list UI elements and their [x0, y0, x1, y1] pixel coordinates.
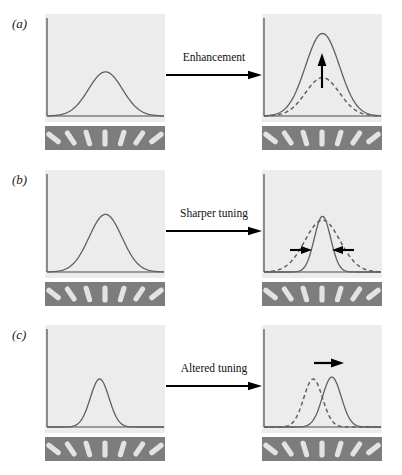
panel-b-transition-label: Sharper tuning: [168, 206, 260, 220]
panel-c-transition: Altered tuning: [168, 361, 260, 407]
panel-a-right-curve-svg: [262, 14, 382, 122]
orientation-bar: [132, 440, 146, 457]
inward-arrow-right-icon: [332, 246, 354, 254]
orientation-bar: [319, 286, 324, 303]
plot-background: [262, 325, 382, 433]
transition-arrow-icon: [166, 380, 262, 392]
orientation-bar: [117, 129, 127, 147]
orientation-bars: [45, 282, 165, 306]
panel-a-letter: (a): [12, 16, 27, 32]
plot-background: [262, 170, 382, 278]
orientation-bar: [365, 442, 382, 457]
orientation-bars: [262, 437, 382, 461]
orientation-bar: [262, 131, 279, 146]
up-arrow-icon: [318, 53, 327, 88]
orientation-bar: [83, 285, 93, 303]
baseline-curve-dashed: [264, 220, 381, 272]
orientation-bar: [148, 131, 165, 146]
panel-c-left-curve-svg: [45, 325, 165, 433]
transition-arrow-icon: [166, 225, 262, 237]
orientation-bar: [117, 285, 127, 303]
orientation-bar: [349, 129, 363, 146]
attended-curve: [264, 216, 381, 272]
attended-curve: [264, 377, 381, 427]
orientation-bar: [300, 440, 310, 458]
orientation-bar: [349, 440, 363, 457]
stimulus-strip: [262, 126, 382, 150]
orientation-bars: [262, 126, 382, 150]
orientation-bar: [132, 129, 146, 146]
orientation-bar: [102, 441, 107, 458]
panel-a: (a) Enhancement: [0, 14, 402, 169]
orientation-bar: [334, 129, 344, 147]
orientation-bar: [349, 285, 363, 302]
panel-c-left-plot: [45, 325, 165, 465]
orientation-bars: [45, 437, 165, 461]
orientation-bar: [365, 131, 382, 146]
orientation-bar: [262, 442, 279, 457]
orientation-bar: [148, 287, 165, 302]
orientation-bar: [365, 287, 382, 302]
orientation-bar: [64, 285, 78, 302]
tuning-curve-figure: (a) Enhancement: [0, 0, 402, 475]
panel-a-transition: Enhancement: [168, 50, 260, 96]
orientation-bar: [45, 131, 62, 146]
baseline-curve: [47, 72, 164, 116]
panel-a-left-plot: [45, 14, 165, 154]
baseline-curve-dashed: [264, 379, 381, 427]
orientation-bar: [319, 441, 324, 458]
orientation-bar: [281, 129, 295, 146]
panel-b-right-curve-svg: [262, 170, 382, 278]
orientation-bars: [45, 126, 165, 150]
orientation-bar: [64, 129, 78, 146]
orientation-bar: [334, 285, 344, 303]
plot-background: [45, 325, 165, 433]
inward-arrow-left-icon: [290, 246, 312, 254]
orientation-bar: [117, 440, 127, 458]
panel-a-right-plot: [262, 14, 382, 154]
stimulus-strip: [262, 437, 382, 461]
orientation-bar: [102, 130, 107, 147]
orientation-bar: [300, 129, 310, 147]
orientation-bars: [262, 282, 382, 306]
orientation-bar: [64, 440, 78, 457]
plot-background: [45, 14, 165, 122]
panel-c-right-plot: [262, 325, 382, 465]
panel-a-left-curve-svg: [45, 14, 165, 122]
panel-c-right-curve-svg: [262, 325, 382, 433]
orientation-bar: [102, 286, 107, 303]
panel-c-transition-label: Altered tuning: [168, 361, 260, 375]
shift-arrow-icon: [314, 359, 344, 368]
stimulus-strip: [45, 126, 165, 150]
panel-c-letter: (c): [12, 327, 26, 343]
orientation-bar: [132, 285, 146, 302]
panel-b-right-plot: [262, 170, 382, 310]
stimulus-strip: [262, 282, 382, 306]
plot-background: [262, 14, 382, 122]
orientation-bar: [334, 440, 344, 458]
orientation-bar: [300, 285, 310, 303]
orientation-bar: [83, 440, 93, 458]
orientation-bar: [262, 287, 279, 302]
panel-c: (c) Altered tuning: [0, 325, 402, 475]
orientation-bar: [83, 129, 93, 147]
panel-a-transition-label: Enhancement: [168, 50, 260, 64]
baseline-curve: [47, 379, 164, 427]
panel-b-letter: (b): [12, 172, 27, 188]
baseline-curve: [47, 214, 164, 272]
stimulus-strip: [45, 282, 165, 306]
transition-arrow-icon: [166, 69, 262, 81]
panel-b-transition: Sharper tuning: [168, 206, 260, 252]
panel-b: (b) Sharper tuning: [0, 170, 402, 325]
orientation-bar: [148, 442, 165, 457]
panel-b-left-curve-svg: [45, 170, 165, 278]
orientation-bar: [45, 442, 62, 457]
panel-b-left-plot: [45, 170, 165, 310]
orientation-bar: [281, 440, 295, 457]
plot-background: [45, 170, 165, 278]
orientation-bar: [45, 287, 62, 302]
stimulus-strip: [45, 437, 165, 461]
orientation-bar: [281, 285, 295, 302]
orientation-bar: [319, 130, 324, 147]
